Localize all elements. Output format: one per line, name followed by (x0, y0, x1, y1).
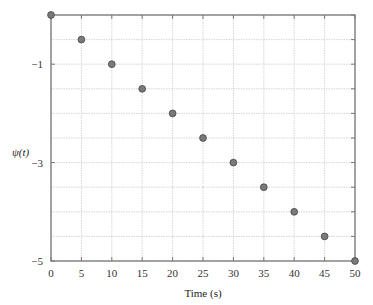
data-point (352, 258, 359, 265)
x-tick-label: 35 (258, 267, 270, 279)
data-point (169, 110, 176, 117)
y-tick-label: −1 (31, 58, 43, 70)
data-point (321, 233, 328, 240)
x-tick-label: 40 (289, 267, 301, 279)
x-tick-label: 20 (167, 267, 179, 279)
data-point (260, 184, 267, 191)
x-tick-label: 45 (319, 267, 331, 279)
x-tick-label: 30 (228, 267, 240, 279)
data-point (48, 12, 55, 19)
x-tick-label: 0 (48, 267, 54, 279)
x-tick-label: 10 (106, 267, 118, 279)
y-axis-label: ψ(t) (12, 146, 30, 159)
x-tick-label: 15 (137, 267, 149, 279)
x-axis-label: Time (s) (184, 287, 222, 300)
data-point (200, 135, 207, 142)
y-axis-ticks: −1−3−5 (31, 15, 355, 267)
data-point (78, 36, 85, 43)
x-tick-label: 5 (79, 267, 85, 279)
y-tick-label: −5 (31, 255, 43, 267)
x-tick-label: 25 (198, 267, 210, 279)
data-point (108, 61, 115, 68)
x-tick-label: 50 (350, 267, 362, 279)
y-tick-label: −3 (31, 157, 43, 169)
data-point (230, 159, 237, 166)
data-point (291, 208, 298, 215)
data-point (139, 85, 146, 92)
x-axis-ticks: 05101520253035404550 (48, 15, 361, 279)
scatter-chart: 05101520253035404550 −1−3−5 Time (s) ψ(t… (0, 0, 373, 305)
